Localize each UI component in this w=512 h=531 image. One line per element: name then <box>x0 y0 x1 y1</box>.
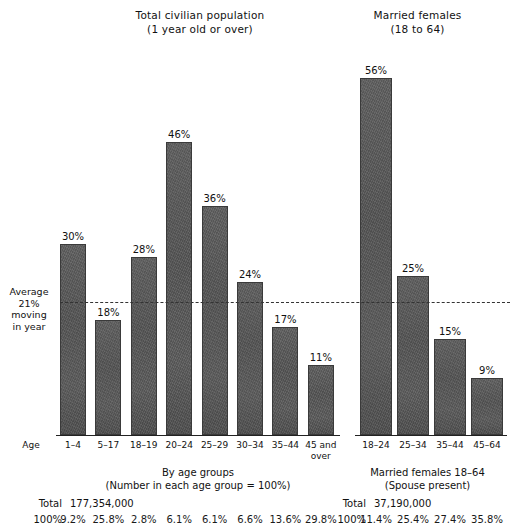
average-note-line1: Average <box>2 286 56 298</box>
bar <box>434 339 466 435</box>
bar <box>471 378 503 435</box>
left-x-axis-line <box>56 435 340 436</box>
age-axis-caption: Age <box>14 440 48 450</box>
left-caption-line1: By age groups <box>162 467 234 478</box>
bar <box>95 320 121 435</box>
average-reference-note: Average 21% moving in year <box>2 286 56 332</box>
right-panel-title-line2: (18 to 64) <box>330 22 505 36</box>
bar <box>272 327 298 435</box>
share-value: 35.8% <box>461 514 512 525</box>
bar <box>166 142 192 435</box>
average-reference-line <box>60 302 510 303</box>
right-bar-plot <box>355 40 507 436</box>
right-caption-line1: Married females 18–64 <box>370 467 485 478</box>
bar <box>360 78 392 435</box>
average-note-line3: moving <box>2 309 56 321</box>
bar <box>237 282 263 435</box>
bar-value-label: 9% <box>463 365 511 376</box>
bar-value-label: 24% <box>229 269 271 280</box>
bar <box>60 244 86 435</box>
bar-value-label: 18% <box>87 307 129 318</box>
bar-value-label: 17% <box>264 314 306 325</box>
bar <box>131 257 157 435</box>
right-total-value: 37,190,000 <box>374 498 431 509</box>
bar <box>202 206 228 435</box>
right-panel-title-line1: Married females <box>374 9 462 21</box>
bar-value-label: 56% <box>352 65 400 76</box>
bar-value-label: 25% <box>389 263 437 274</box>
left-panel-title-line2: (1 year old or over) <box>95 22 305 36</box>
chart-canvas: Total civilian population (1 year old or… <box>0 0 512 531</box>
right-panel-caption: Married females 18–64 (Spouse present) <box>345 466 510 492</box>
bar <box>308 365 334 435</box>
bar-value-label: 28% <box>123 244 165 255</box>
bar-value-label: 11% <box>300 352 342 363</box>
right-caption-line2: (Spouse present) <box>345 479 510 492</box>
right-panel-title: Married females (18 to 64) <box>330 8 505 36</box>
left-total-label: Total <box>14 498 62 509</box>
left-panel-title-line1: Total civilian population <box>136 9 265 21</box>
average-note-line2: 21% <box>2 298 56 310</box>
left-bar-plot <box>56 40 340 436</box>
left-panel-title: Total civilian population (1 year old or… <box>95 8 305 36</box>
bar-value-label: 46% <box>158 129 200 140</box>
bar <box>397 276 429 435</box>
bar-value-label: 30% <box>52 231 94 242</box>
x-tick-label: 45–64 <box>462 440 512 451</box>
bar-value-label: 36% <box>194 193 236 204</box>
left-total-value: 177,354,000 <box>70 498 134 509</box>
x-tick-label: 45 and over <box>299 440 343 461</box>
left-caption-line2: (Number in each age group = 100%) <box>56 479 340 492</box>
average-note-line4: in year <box>2 321 56 333</box>
right-total-label: Total <box>318 498 366 509</box>
share-value: 29.8% <box>298 514 344 525</box>
right-x-axis-line <box>355 435 507 436</box>
bar-value-label: 15% <box>426 326 474 337</box>
left-panel-caption: By age groups (Number in each age group … <box>56 466 340 492</box>
